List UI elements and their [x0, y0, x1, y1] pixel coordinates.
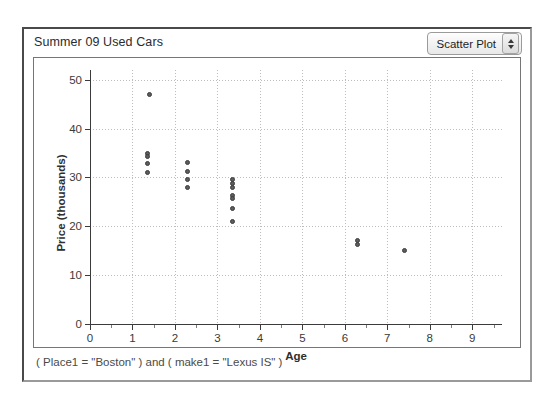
x-axis-minor-tick — [111, 325, 112, 328]
x-axis-tick — [175, 325, 176, 330]
scatter-point[interactable] — [185, 169, 190, 174]
x-axis-tick-label: 7 — [372, 332, 402, 344]
x-axis-tick — [430, 325, 431, 330]
y-axis-tick — [85, 177, 91, 178]
x-axis-tick — [345, 325, 346, 330]
plot-data-area — [90, 70, 502, 324]
scatter-point[interactable] — [145, 170, 150, 175]
gridline-horizontal — [90, 80, 502, 81]
gridline-horizontal — [90, 226, 502, 227]
screenshot-root: Summer 09 Used Cars Scatter Plot 0102030… — [0, 0, 552, 404]
scatter-point[interactable] — [147, 92, 152, 97]
x-axis-tick-label: 1 — [117, 332, 147, 344]
triangle-up-icon[interactable] — [508, 39, 514, 43]
y-axis-tick — [85, 226, 91, 227]
scatter-point[interactable] — [185, 177, 190, 182]
x-axis-tick-label: 4 — [245, 332, 275, 344]
gridline-vertical — [175, 70, 176, 324]
scatter-point[interactable] — [185, 160, 190, 165]
y-axis-tick — [85, 80, 91, 81]
scatter-plot-frame: 01020304050 Price (thousands) Age 012345… — [33, 57, 521, 348]
scatter-point[interactable] — [185, 185, 190, 190]
y-axis-tick — [85, 275, 91, 276]
x-axis-minor-tick — [494, 325, 495, 328]
x-axis-tick-label: 6 — [330, 332, 360, 344]
y-axis-tick-label: 50 — [42, 74, 82, 86]
scatter-point[interactable] — [145, 161, 150, 166]
scatter-point[interactable] — [355, 242, 360, 247]
x-axis-tick — [132, 325, 133, 330]
x-axis-tick-label: 0 — [75, 332, 105, 344]
x-axis-minor-tick — [324, 325, 325, 328]
x-axis-minor-tick — [366, 325, 367, 328]
x-axis-tick — [260, 325, 261, 330]
y-axis-tick-label: 0 — [42, 318, 82, 330]
x-axis-minor-tick — [281, 325, 282, 328]
triangle-down-icon[interactable] — [508, 45, 514, 49]
scatter-point[interactable] — [230, 206, 235, 211]
x-axis-line — [90, 324, 502, 325]
x-axis-minor-tick — [409, 325, 410, 328]
x-axis-tick-label: 2 — [160, 332, 190, 344]
plot-type-selected-label: Scatter Plot — [437, 38, 502, 50]
x-axis-minor-tick — [154, 325, 155, 328]
filter-formula-text: ( Place1 = "Boston" ) and ( make1 = "Lex… — [36, 356, 282, 368]
x-axis-tick-label: 8 — [415, 332, 445, 344]
plot-type-select[interactable]: Scatter Plot — [427, 32, 522, 55]
window-title-bar: Summer 09 Used Cars Scatter Plot — [24, 29, 530, 57]
gridline-vertical — [217, 70, 218, 324]
x-axis-minor-tick — [239, 325, 240, 328]
gridline-horizontal — [90, 177, 502, 178]
stepper-control[interactable] — [502, 33, 519, 54]
gridline-horizontal — [90, 275, 502, 276]
y-axis-line — [90, 70, 91, 324]
gridline-vertical — [132, 70, 133, 324]
y-axis-tick — [85, 129, 91, 130]
x-axis-tick — [217, 325, 218, 330]
x-axis-tick — [90, 325, 91, 330]
gridline-vertical — [430, 70, 431, 324]
gridline-vertical — [302, 70, 303, 324]
scatter-point[interactable] — [230, 185, 235, 190]
scatter-point[interactable] — [230, 196, 235, 201]
scatter-point[interactable] — [402, 248, 407, 253]
x-axis-tick — [387, 325, 388, 330]
y-axis-title: Price (thousands) — [55, 123, 67, 283]
x-axis-minor-tick — [196, 325, 197, 328]
scatter-point[interactable] — [145, 154, 150, 159]
x-axis-tick-label: 9 — [457, 332, 487, 344]
gridline-horizontal — [90, 129, 502, 130]
gridline-vertical — [260, 70, 261, 324]
x-axis-tick — [302, 325, 303, 330]
page-title: Summer 09 Used Cars — [34, 35, 163, 49]
gridline-vertical — [472, 70, 473, 324]
x-axis-tick-label: 3 — [202, 332, 232, 344]
x-axis-tick-label: 5 — [287, 332, 317, 344]
gridline-vertical — [345, 70, 346, 324]
x-axis-tick — [472, 325, 473, 330]
x-axis-minor-tick — [451, 325, 452, 328]
scatter-point[interactable] — [230, 219, 235, 224]
gridline-vertical — [387, 70, 388, 324]
chart-window-panel: Summer 09 Used Cars Scatter Plot 0102030… — [22, 27, 532, 382]
